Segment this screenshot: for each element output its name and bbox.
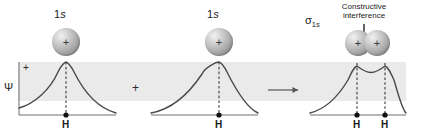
wavefunction-curve-sigma (310, 66, 406, 113)
nucleus-label-H-right-b: H (381, 120, 388, 131)
nucleus-label-H-right-a: H (353, 120, 360, 131)
nucleus-dot-right-a (354, 112, 359, 117)
nucleus-dot-right-b (382, 112, 387, 117)
panel-right-plot (0, 0, 423, 138)
figure-canvas: 1s + Ψ + H + 1s + H σ1s Constructive (0, 0, 423, 138)
